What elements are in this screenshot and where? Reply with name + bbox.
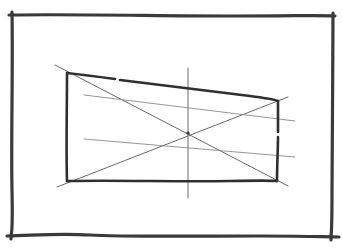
center-point bbox=[186, 131, 189, 134]
perspective-rectangle bbox=[67, 73, 278, 181]
frame-right-edge bbox=[331, 13, 333, 240]
rect-right-edge-lower bbox=[277, 137, 278, 181]
frame-top-edge bbox=[9, 15, 335, 16]
rect-top-edge-left bbox=[67, 73, 115, 79]
frame-left-edge bbox=[11, 12, 12, 239]
perspective-rectangle-sketch bbox=[0, 0, 343, 250]
construction-lines bbox=[55, 65, 295, 198]
rect-top-edge-right bbox=[120, 80, 278, 101]
frame-bottom-edge bbox=[7, 234, 339, 237]
rect-bottom-edge bbox=[67, 181, 277, 182]
diagonal-line-1 bbox=[55, 65, 288, 186]
diagonal-line-2 bbox=[57, 97, 288, 187]
horizontal-guide-lower bbox=[84, 139, 295, 157]
